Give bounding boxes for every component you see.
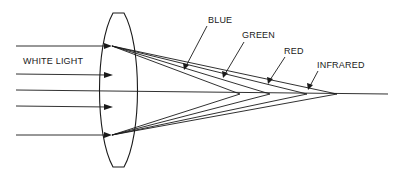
label-infrared: INFRARED bbox=[317, 60, 365, 70]
convex-lens bbox=[100, 13, 138, 167]
chromatic-aberration-diagram: WHITE LIGHT BLUE GREEN RED INFRARED bbox=[0, 0, 404, 176]
label-green: GREEN bbox=[242, 30, 275, 40]
label-blue: BLUE bbox=[208, 15, 232, 25]
label-red: RED bbox=[284, 46, 304, 56]
refracted-rays-bottom bbox=[112, 94, 337, 135]
label-white-light: WHITE LIGHT bbox=[23, 56, 84, 66]
